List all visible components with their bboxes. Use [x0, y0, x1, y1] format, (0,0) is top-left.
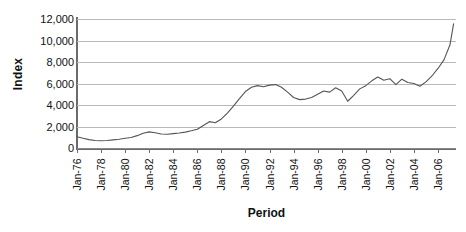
x-axis-tick [245, 149, 246, 153]
x-axis-tick-label: Jan-88 [214, 154, 228, 200]
y-axis-tick-label: 4,000 [26, 99, 74, 111]
x-axis-tick-label-text: Jan-04 [408, 159, 419, 205]
x-axis-tick-label: Jan-94 [287, 154, 301, 200]
chart-figure: Index 12,00010,0008,0006,0004,0002,0000 … [0, 0, 466, 232]
x-axis-tick-label: Jan-82 [142, 154, 156, 200]
x-axis-tick [125, 149, 126, 153]
x-axis-tick [101, 149, 102, 153]
x-axis-tick-label-text: Jan-86 [192, 159, 203, 205]
x-axis-tick [366, 149, 367, 153]
x-axis-tick [270, 149, 271, 153]
x-axis-tick-label-text: Jan-98 [336, 159, 347, 205]
series-line-index [77, 19, 456, 148]
x-axis-tick [342, 149, 343, 153]
x-axis-tick-label: Jan-86 [190, 154, 204, 200]
y-axis-tick-labels: 12,00010,0008,0006,0004,0002,0000 [26, 13, 74, 149]
x-axis-tick [197, 149, 198, 153]
x-axis-tick-label-text: Jan-76 [72, 159, 83, 205]
x-axis-tick [438, 149, 439, 153]
plot-area [77, 19, 456, 148]
series-polyline [77, 24, 454, 141]
x-axis-tick-label-text: Jan-02 [384, 159, 395, 205]
x-axis-tick-label-text: Jan-82 [144, 159, 155, 205]
x-axis-tick [294, 149, 295, 153]
x-axis-tick-label-text: Jan-96 [312, 159, 323, 205]
x-axis-tick-label: Jan-80 [118, 154, 132, 200]
x-axis-tick-label: Jan-02 [383, 154, 397, 200]
x-axis-tick-labels: Jan-76Jan-78Jan-80Jan-82Jan-84Jan-86Jan-… [77, 154, 456, 202]
x-axis-tick [318, 149, 319, 153]
x-axis-tick-label: Jan-90 [238, 154, 252, 200]
x-axis-tick-label-text: Jan-92 [264, 159, 275, 205]
x-axis-tick [173, 149, 174, 153]
x-axis-tick-label-text: Jan-80 [120, 159, 131, 205]
x-axis-tick-label-text: Jan-78 [96, 159, 107, 205]
y-axis-tick-label: 0 [26, 142, 74, 154]
x-axis-tick-label-text: Jan-06 [432, 159, 443, 205]
y-axis-tick-label: 2,000 [26, 121, 74, 133]
x-axis-tick-label: Jan-84 [166, 154, 180, 200]
x-axis-tick [149, 149, 150, 153]
x-axis-tick [390, 149, 391, 153]
x-axis-title: Period [77, 206, 456, 220]
x-axis-tick-label: Jan-06 [431, 154, 445, 200]
x-axis-tick-label: Jan-78 [94, 154, 108, 200]
y-axis-title-text: Index [11, 58, 25, 90]
x-axis-tick-label-text: Jan-94 [288, 159, 299, 205]
y-axis-tick-label: 12,000 [26, 13, 74, 25]
x-axis-tick-label-text: Jan-88 [216, 159, 227, 205]
x-axis-tick-label: Jan-96 [311, 154, 325, 200]
y-axis-tick-label: 10,000 [26, 35, 74, 47]
y-axis-tick-label: 8,000 [26, 56, 74, 68]
x-axis-tick-label: Jan-04 [407, 154, 421, 200]
x-axis-tick-label: Jan-76 [70, 154, 84, 200]
x-axis-tick-label: Jan-98 [335, 154, 349, 200]
x-axis-tick [221, 149, 222, 153]
x-axis-tick [77, 149, 78, 153]
x-axis-tick-label: Jan-00 [359, 154, 373, 200]
x-axis-tick-label-text: Jan-90 [240, 159, 251, 205]
x-axis-tick-label-text: Jan-00 [360, 159, 371, 205]
x-axis-tick-label: Jan-92 [263, 154, 277, 200]
y-axis-tick-label: 6,000 [26, 78, 74, 90]
x-axis-tick [414, 149, 415, 153]
x-axis-tick-label-text: Jan-84 [168, 159, 179, 205]
